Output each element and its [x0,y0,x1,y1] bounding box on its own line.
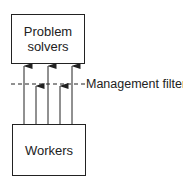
workers-label: Workers [25,143,73,158]
problem-solvers-line1: Problem [24,24,72,39]
management-filter-label: Management filter [86,77,183,91]
problem-solvers-box: Problem solvers [11,14,85,64]
problem-solvers-line2: solvers [24,39,72,54]
workers-box: Workers [12,124,86,176]
